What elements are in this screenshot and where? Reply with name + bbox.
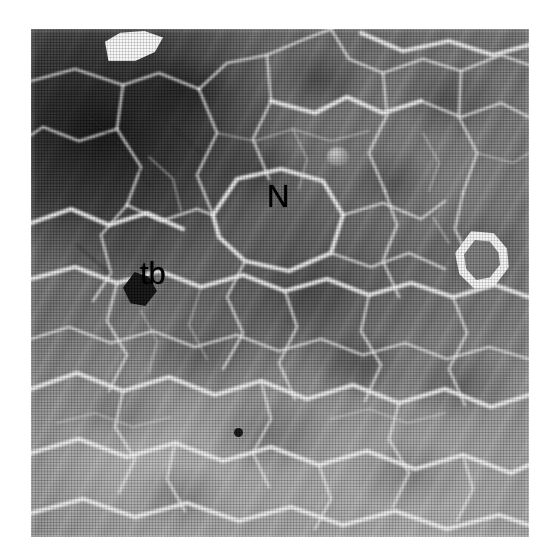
annotation-label-tb: tb <box>140 258 166 289</box>
scan-noise-layer <box>31 29 529 537</box>
micrograph-plate: N tb <box>31 29 529 537</box>
sem-micrograph-figure: N tb <box>0 0 546 550</box>
annotation-label-n: N <box>267 181 289 212</box>
